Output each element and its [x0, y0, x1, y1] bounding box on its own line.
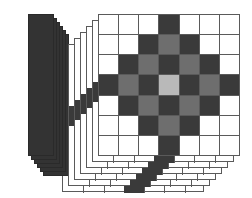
grid-cell [220, 136, 239, 155]
grid-cell [99, 55, 118, 74]
grid-sheet-stack [60, 0, 252, 198]
grid-cell [220, 116, 239, 135]
grid-cell [119, 35, 138, 54]
grid-cell [159, 75, 178, 94]
grid-cell [119, 96, 138, 115]
grid-cell [159, 15, 178, 34]
grid-cell [99, 75, 118, 94]
grid-cell [119, 136, 138, 155]
grid-cell [159, 96, 178, 115]
grid-cell [220, 35, 239, 54]
grid-cell [119, 55, 138, 74]
grid-cell [180, 15, 199, 34]
grid-cell [200, 55, 219, 74]
grid-cell [200, 35, 219, 54]
grid-cell [139, 15, 158, 34]
front-grid [98, 14, 240, 156]
grid-cell [139, 75, 158, 94]
grid-cell [180, 96, 199, 115]
grid-cell [180, 116, 199, 135]
grid-cell [220, 96, 239, 115]
grid-cell [200, 136, 219, 155]
grid-cell [220, 55, 239, 74]
grid-cell [180, 35, 199, 54]
grid-cell [99, 116, 118, 135]
grid-cell [159, 136, 178, 155]
grid-cell [139, 96, 158, 115]
grid-cell [200, 75, 219, 94]
grid-cell [159, 55, 178, 74]
grid-cell [119, 116, 138, 135]
grid-cell [200, 15, 219, 34]
grid-cell [159, 35, 178, 54]
grid-cell [180, 75, 199, 94]
grid-cell [139, 136, 158, 155]
grid-cell [180, 136, 199, 155]
grid-cell [139, 35, 158, 54]
grid-cell [99, 15, 118, 34]
dark-panel-sheet [28, 14, 54, 156]
grid-cell [200, 96, 219, 115]
grid-cell [180, 55, 199, 74]
grid-cell [99, 35, 118, 54]
grid-cell [220, 75, 239, 94]
grid-cell [220, 15, 239, 34]
diagram-canvas [0, 0, 252, 198]
grid-cell [119, 15, 138, 34]
grid-cell [99, 136, 118, 155]
grid-cell [139, 55, 158, 74]
grid-cell [159, 116, 178, 135]
grid-cell [139, 116, 158, 135]
grid-cell [200, 116, 219, 135]
grid-cell [99, 96, 118, 115]
grid-cell [119, 75, 138, 94]
